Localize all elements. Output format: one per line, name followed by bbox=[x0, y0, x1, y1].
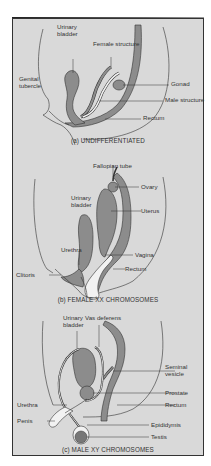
label-urinary-bladder: Urinary bladder bbox=[57, 24, 78, 37]
label-clitoris: Clitoris bbox=[16, 272, 35, 279]
label-penis: Penis bbox=[17, 418, 32, 425]
label-uterus: Uterus bbox=[141, 208, 159, 215]
caption-male: (c) MALE XY CHROMOSOMES bbox=[13, 446, 203, 453]
label-urethra-female: Urethra bbox=[61, 247, 82, 254]
label-urinary-bladder-female: Urinary bladder bbox=[71, 195, 92, 208]
label-urethra-male: Urethra bbox=[17, 402, 38, 409]
panel-male: Urinary bladder Vas deferens Seminal ves… bbox=[13, 309, 203, 455]
label-rectum-female: Rectum bbox=[125, 266, 146, 273]
panel-undifferentiated: Urinary bladder Female structure Genital… bbox=[13, 19, 203, 157]
caption-undifferentiated: (a) UNDIFFERENTIATED bbox=[13, 137, 203, 144]
label-vas-deferens: Vas deferens bbox=[85, 315, 121, 322]
female-diagram bbox=[13, 157, 203, 309]
caption-female: (b) FEMALE XX CHROMOSOMES bbox=[13, 296, 203, 303]
male-diagram bbox=[13, 309, 203, 455]
label-gonad: Gonad bbox=[171, 81, 190, 88]
label-prostate: Prostate bbox=[165, 390, 188, 397]
label-female-structure: Female structure bbox=[93, 41, 139, 48]
label-testis: Testis bbox=[151, 434, 167, 441]
label-ovary: Ovary bbox=[141, 184, 158, 191]
panel-female: Fallopian tube Urinary bladder Ovary Ute… bbox=[13, 157, 203, 309]
label-urinary-bladder-male: Urinary bladder bbox=[63, 315, 84, 328]
label-rectum-male: Rectum bbox=[165, 402, 186, 409]
label-vagina: Vagina bbox=[135, 252, 154, 259]
label-epididymis: Epididymis bbox=[151, 422, 181, 429]
label-genital-tubercle: Genital tubercle bbox=[19, 76, 41, 89]
label-seminal-vesicle: Seminal vesicle bbox=[165, 364, 187, 377]
label-male-structure: Male structure bbox=[165, 97, 204, 104]
label-fallopian-tube: Fallopian tube bbox=[93, 163, 132, 170]
reproductive-development-figure: Urinary bladder Female structure Genital… bbox=[12, 18, 204, 456]
label-rectum: Rectum bbox=[143, 115, 164, 122]
